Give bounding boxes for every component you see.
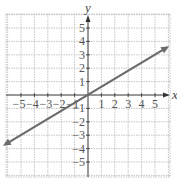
axes: xy — [6, 0, 177, 177]
x-tick-label: 4 — [139, 97, 145, 111]
x-tick-label: −5 — [13, 97, 26, 111]
y-tick-label: 4 — [79, 34, 85, 48]
x-axis-label: x — [171, 87, 177, 102]
y-tick-label: −3 — [72, 128, 85, 142]
y-tick-label: 2 — [79, 61, 85, 75]
x-tick-label: 3 — [125, 97, 131, 111]
y-tick-label: 1 — [79, 75, 85, 89]
x-tick-label: 1 — [98, 97, 104, 111]
x-tick-label: −4 — [26, 97, 39, 111]
y-axis-label: y — [83, 0, 91, 15]
x-tick-label: −3 — [39, 97, 52, 111]
plotted-line — [3, 46, 169, 146]
y-axis-arrow-icon — [86, 15, 91, 22]
line-y-equals-three-fifths-x — [5, 47, 167, 144]
x-tick-label: 5 — [152, 97, 158, 111]
y-tick-label: 5 — [79, 21, 85, 35]
y-tick-label: −2 — [72, 115, 85, 129]
y-tick-label: −4 — [72, 142, 85, 156]
x-tick-label: 2 — [112, 97, 118, 111]
y-tick-label: −5 — [72, 155, 85, 169]
y-tick-label: 3 — [79, 48, 85, 62]
coordinate-graph: xy −5−4−3−2−11234554321−1−2−3−4−5 — [0, 0, 177, 181]
x-axis-arrow-icon — [163, 93, 170, 98]
